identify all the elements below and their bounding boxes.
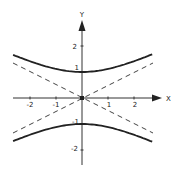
hyperbola-lower-branch [13,124,152,142]
x-tick-label: 2 [133,101,137,109]
y-axis-label: Y [79,11,85,19]
x-tick-label: -1 [53,101,60,109]
x-axis-arrow-icon [152,95,162,102]
hyperbola-upper-branch [13,54,152,72]
x-axis-label: X [166,95,171,103]
origin-marker [80,96,84,100]
y-tick-label: 1 [75,64,79,72]
y-tick-label: -2 [71,145,78,153]
hyperbola-diagram: -2 -1 1 2 2 1 -1 -2 X Y [0,0,181,169]
x-tick-label: 1 [107,101,111,109]
y-tick-label: 2 [73,43,77,51]
x-tick-label: -2 [27,101,34,109]
y-axis-arrow-icon [79,20,86,31]
